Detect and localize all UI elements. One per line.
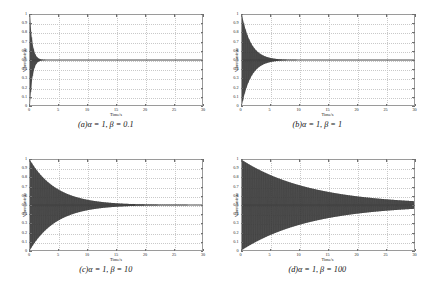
y-tick-label: 0.1 (22, 240, 27, 244)
y-tick-label: 0.8 (233, 30, 238, 34)
y-tick-mark (201, 223, 204, 224)
x-tick-mark (145, 249, 146, 252)
y-tick-label: 0.8 (22, 175, 27, 179)
x-tick-mark (357, 249, 358, 252)
y-tick-mark (412, 187, 415, 188)
vibration-trace-a (30, 15, 202, 105)
x-tick-mark (386, 14, 387, 17)
y-tick-mark (29, 42, 32, 43)
x-tick-label: 30 (201, 253, 205, 257)
x-tick-mark (328, 159, 329, 162)
y-tick-mark (241, 187, 244, 188)
y-tick-mark (201, 177, 204, 178)
y-tick-mark (201, 168, 204, 169)
y-tick-mark (201, 60, 204, 61)
x-tick-mark (87, 104, 88, 107)
x-tick-mark (386, 104, 387, 107)
x-tick-mark (270, 14, 271, 17)
x-tick-mark (299, 249, 300, 252)
x-tick-label: 30 (201, 108, 205, 112)
x-tick-mark (270, 249, 271, 252)
x-tick-mark (58, 14, 59, 17)
y-tick-mark (29, 187, 32, 188)
y-tick-mark (241, 168, 244, 169)
y-tick-label: 0 (236, 104, 238, 108)
y-tick-label: 0.1 (22, 95, 27, 99)
y-tick-mark (201, 214, 204, 215)
y-tick-mark (29, 69, 32, 70)
x-tick-mark (87, 14, 88, 17)
panel-caption-a: (a)α = 1, β = 0.1 (0, 121, 212, 129)
y-tick-mark (201, 97, 204, 98)
y-tick-label: 0.3 (233, 76, 238, 80)
y-tick-mark (412, 214, 415, 215)
x-tick-mark (174, 104, 175, 107)
x-tick-label: 20 (354, 108, 358, 112)
x-tick-label: 10 (85, 108, 89, 112)
y-tick-mark (412, 97, 415, 98)
y-tick-label: 0.1 (233, 95, 238, 99)
y-tick-mark (241, 242, 244, 243)
y-tick-mark (201, 233, 204, 234)
x-tick-mark (415, 249, 416, 252)
x-tick-mark (328, 14, 329, 17)
y-tick-label: 0.3 (22, 221, 27, 225)
y-tick-label: 0.3 (22, 76, 27, 80)
panel-a: 00.10.20.30.40.50.60.70.80.91 0510152025… (0, 0, 212, 145)
y-tick-mark (241, 78, 244, 79)
y-tick-label: 0.9 (233, 21, 238, 25)
axes-a (29, 14, 203, 106)
y-tick-mark (201, 88, 204, 89)
x-tick-mark (415, 159, 416, 162)
caption-alpha-b: α = 1 (302, 120, 320, 129)
x-tick-mark (357, 104, 358, 107)
oscillation-waveform (30, 15, 202, 92)
y-tick-mark (241, 223, 244, 224)
x-tick-label: 10 (296, 253, 300, 257)
y-tick-label: 0.2 (22, 230, 27, 234)
x-tick-mark (270, 104, 271, 107)
caption-index-c: (c) (79, 265, 88, 274)
y-tick-label: 0.2 (22, 85, 27, 89)
y-tick-label: 1 (236, 157, 238, 161)
y-tick-mark (241, 233, 244, 234)
x-tick-mark (328, 104, 329, 107)
y-tick-mark (241, 23, 244, 24)
x-tick-label: 5 (57, 108, 59, 112)
y-tick-mark (29, 223, 32, 224)
x-tick-mark (29, 104, 30, 107)
y-tick-mark (412, 223, 415, 224)
y-tick-mark (29, 196, 32, 197)
x-tick-mark (328, 249, 329, 252)
x-tick-mark (203, 14, 204, 17)
x-tick-mark (58, 104, 59, 107)
y-tick-label: 0.9 (22, 166, 27, 170)
y-tick-label: 0.7 (233, 184, 238, 188)
y-tick-label: 0.7 (22, 39, 27, 43)
x-tick-mark (145, 14, 146, 17)
y-axis-label-b: Vibration/mm (234, 48, 238, 72)
y-tick-label: 0.8 (22, 30, 27, 34)
y-tick-mark (201, 69, 204, 70)
x-tick-mark (58, 159, 59, 162)
y-tick-mark (412, 42, 415, 43)
panel-caption-c: (c)α = 1, β = 10 (0, 266, 212, 274)
caption-index-d: (d) (288, 265, 298, 274)
x-tick-label: 30 (412, 108, 416, 112)
x-tick-mark (299, 159, 300, 162)
figure-grid: 00.10.20.30.40.50.60.70.80.91 0510152025… (0, 0, 423, 290)
x-tick-mark (386, 159, 387, 162)
x-tick-mark (116, 159, 117, 162)
x-tick-mark (299, 14, 300, 17)
x-tick-mark (299, 104, 300, 107)
x-tick-label: 0 (239, 108, 241, 112)
y-tick-mark (241, 205, 244, 206)
y-tick-mark (201, 242, 204, 243)
y-tick-mark (412, 168, 415, 169)
x-tick-label: 10 (296, 108, 300, 112)
vibration-trace-c (30, 160, 202, 250)
x-tick-label: 10 (85, 253, 89, 257)
axes-d (241, 159, 415, 251)
y-tick-mark (201, 205, 204, 206)
x-tick-mark (241, 159, 242, 162)
